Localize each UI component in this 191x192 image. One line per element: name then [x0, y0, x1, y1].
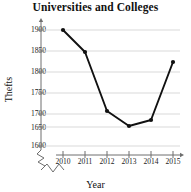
- data-line-thefts: [63, 30, 173, 126]
- data-point-markers: [61, 28, 175, 128]
- data-point-2014[interactable]: [149, 118, 153, 122]
- data-point-2013[interactable]: [127, 124, 131, 128]
- data-point-2012[interactable]: [105, 109, 109, 113]
- data-point-2011[interactable]: [83, 50, 87, 54]
- axis-break-zigzag-icon: [37, 150, 64, 172]
- x-axis-line: [56, 151, 184, 158]
- data-point-2015[interactable]: [171, 60, 175, 64]
- data-point-2010[interactable]: [61, 28, 65, 32]
- chart-container: Universities and Colleges Thefts Year 19…: [0, 0, 191, 192]
- y-axis-line: [38, 18, 44, 150]
- gridlines: [41, 30, 180, 146]
- chart-plot-area: [0, 0, 191, 192]
